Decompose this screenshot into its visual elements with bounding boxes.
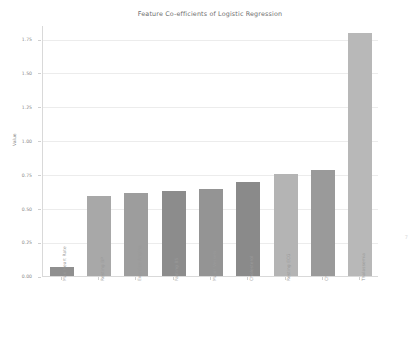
x-tick-label: Chest Pain Type — [324, 246, 329, 281]
y-tick-label: 0.00 — [0, 274, 32, 279]
bar — [348, 33, 372, 276]
chart-figure: Feature Co-efficients of Logistic Regres… — [0, 0, 414, 337]
x-tick-label: Exercise Angina — [137, 245, 142, 281]
y-tick-mark — [38, 73, 41, 74]
bar — [311, 170, 335, 276]
x-tick-label: Resting BP — [100, 257, 105, 281]
y-tick-label: 0.25 — [0, 240, 32, 245]
plot-area — [42, 26, 378, 277]
y-tick-mark — [38, 141, 41, 142]
bar — [87, 196, 111, 276]
y-tick-mark — [38, 277, 41, 278]
x-tick-label: Max Heart Rate — [62, 246, 67, 281]
y-tick-label: 0.75 — [0, 173, 32, 178]
y-tick-label: 1.25 — [0, 105, 32, 110]
y-tick-mark — [38, 175, 41, 176]
x-tick-label: Resting ECG — [286, 253, 291, 281]
x-tick-label: Cholesterol — [249, 256, 254, 281]
x-tick-label: Fasting BS — [174, 258, 179, 281]
y-tick-mark — [38, 209, 41, 210]
y-tick-mark — [38, 40, 41, 41]
bar — [199, 189, 223, 276]
chart-title: Feature Co-efficients of Logistic Regres… — [42, 10, 378, 18]
y-tick-label: 0.50 — [0, 207, 32, 212]
y-tick-label: 1.00 — [0, 139, 32, 144]
y-tick-mark — [38, 243, 41, 244]
x-tick-mark — [210, 277, 211, 280]
y-tick-label: 1.50 — [0, 71, 32, 76]
y-tick-mark — [38, 107, 41, 108]
y-tick-label: 1.75 — [0, 37, 32, 42]
x-tick-label: Thalassemia — [361, 253, 366, 281]
x-tick-label: Major Vessels — [212, 251, 217, 281]
bar-series — [43, 26, 378, 276]
x-tick-mark — [98, 277, 99, 280]
corner-mark: 7 — [405, 234, 408, 240]
x-tick-mark — [322, 277, 323, 280]
